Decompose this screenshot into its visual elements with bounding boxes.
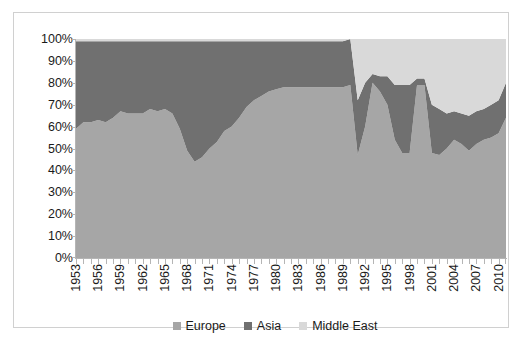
legend-item-middle-east[interactable]: Middle East [299,319,377,333]
legend-swatch-icon [173,322,181,330]
chart-frame: 0%10%20%30%40%50%60%70%80%90%100% 195319… [13,12,509,328]
y-axis-tick-label: 60% [27,120,73,134]
x-axis-tick-label: 1989 [336,264,350,292]
x-axis-tick-label: 1998 [403,264,417,292]
legend-swatch-icon [244,322,252,330]
x-axis-tick-label: 2004 [447,264,461,292]
x-axis-tick-label: 1974 [225,264,239,292]
x-axis-labels: 1953195619591962196519681971197419771980… [76,264,506,310]
x-axis-tick-label: 2010 [492,264,506,292]
x-axis-tick-label: 2007 [469,264,483,292]
chart-legend: EuropeAsiaMiddle East [27,316,523,336]
legend-item-asia[interactable]: Asia [244,319,281,333]
plot-area [76,39,506,258]
x-axis-tick-label: 1992 [358,264,372,292]
stacked-area-svg [76,39,506,258]
legend-item-label: Middle East [312,319,377,333]
x-axis-tick-label: 1971 [202,264,216,292]
y-axis-tick-label: 10% [27,229,73,243]
y-axis-tick-label: 70% [27,98,73,112]
x-axis-tick-label: 1995 [380,264,394,292]
x-axis-tick-label: 1953 [69,264,83,292]
y-axis-tick-label: 90% [27,54,73,68]
legend-item-europe[interactable]: Europe [173,319,226,333]
y-axis-tick-label: 0% [27,251,73,265]
legend-item-label: Europe [186,319,226,333]
legend-item-label: Asia [257,319,281,333]
y-axis-tick-label: 20% [27,207,73,221]
x-axis-tick-label: 1977 [247,264,261,292]
y-axis-tick-label: 50% [27,142,73,156]
y-axis-tick-label: 30% [27,185,73,199]
x-axis-tick-label: 1965 [158,264,172,292]
y-axis-tick-label: 100% [27,32,73,46]
y-axis-tick-label: 40% [27,163,73,177]
x-axis-tick-label: 2001 [425,264,439,292]
y-axis-tick-label: 80% [27,76,73,90]
x-axis-tick-label: 1956 [91,264,105,292]
x-axis-tick-label: 1986 [314,264,328,292]
y-axis-labels: 0%10%20%30%40%50%60%70%80%90%100% [27,39,73,258]
x-axis-tick-label: 1959 [113,264,127,292]
x-axis-tick-label: 1962 [136,264,150,292]
legend-swatch-icon [299,322,307,330]
x-axis-tick-label: 1983 [291,264,305,292]
x-axis-tick-label: 1968 [180,264,194,292]
x-axis-tick-label: 1980 [269,264,283,292]
